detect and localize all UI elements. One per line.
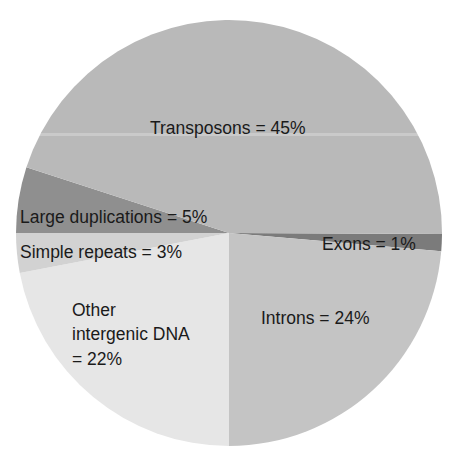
pie-chart: Transposons = 45% Large duplications = 5… — [0, 0, 457, 466]
label-other-intergenic-line2: intergenic DNA — [72, 324, 190, 344]
label-other-intergenic-line3: = 22% — [72, 349, 122, 369]
label-introns: Introns = 24% — [261, 308, 369, 328]
label-large-duplications: Large duplications = 5% — [20, 207, 207, 227]
pie-slices — [16, 20, 442, 446]
slice-introns — [229, 233, 441, 446]
label-transposons: Transposons = 45% — [150, 118, 305, 138]
label-exons: Exons = 1% — [322, 234, 416, 254]
label-simple-repeats: Simple repeats = 3% — [20, 242, 182, 262]
label-other-intergenic-line1: Other — [72, 300, 116, 320]
